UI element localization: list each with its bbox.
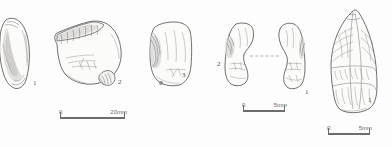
scale-tick-end [369, 128, 370, 135]
refit-piece-right [272, 20, 312, 92]
scale-bar-right: 0 5mm [328, 126, 370, 138]
artifact-number-label: 2 [118, 79, 122, 86]
scale-bar-line [328, 133, 370, 135]
artifact-number-label: 1 [33, 80, 37, 87]
biface-artifact-1 [325, 8, 387, 118]
scale-tick-end [124, 112, 125, 119]
flake-artifact-3 [144, 14, 199, 94]
illustration-plate: 1 2 [0, 0, 392, 147]
artifact-number-label: 3 [182, 72, 186, 79]
scale-bar-middle: 0 5mm [243, 103, 285, 115]
artifact-number-label: 2 [217, 61, 221, 68]
artifact-number-label: 1 [368, 97, 372, 104]
artifact-number-label: 1 [305, 89, 309, 96]
scale-bar-left: 0 20mm [60, 110, 125, 122]
scale-tick-end [284, 105, 285, 112]
scale-bar-line [243, 110, 285, 112]
scale-bar-line [60, 117, 125, 119]
core-artifact-2 [44, 14, 129, 94]
